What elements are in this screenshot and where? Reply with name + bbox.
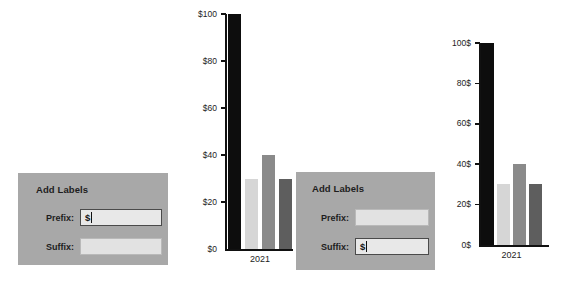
y-axis-tick <box>221 107 226 109</box>
suffix-label: Suffix: <box>305 242 349 252</box>
bar-series-1 <box>228 14 241 249</box>
y-axis-tick <box>221 13 226 15</box>
prefix-field-row: Prefix: $ <box>28 209 162 226</box>
y-axis-tick <box>475 163 480 165</box>
bar-chart-suffix: 0$20$40$60$80$100$2021 <box>443 38 555 280</box>
suffix-input[interactable] <box>80 238 162 255</box>
y-axis-tick-label: 80$ <box>443 78 471 88</box>
y-axis-tick <box>475 204 480 206</box>
x-axis-line <box>479 245 549 247</box>
prefix-label: Prefix: <box>305 213 349 223</box>
add-labels-dialog-suffix: Add Labels Prefix: Suffix: $ <box>296 172 435 270</box>
y-axis-tick <box>221 60 226 62</box>
y-axis-tick-label: 60$ <box>443 118 471 128</box>
x-axis-line <box>225 249 293 251</box>
bar-series-3 <box>262 155 275 249</box>
y-axis-tick-label: 0$ <box>443 240 471 250</box>
bar-series-2 <box>497 184 510 245</box>
y-axis-tick <box>475 123 480 125</box>
prefix-input-value: $ <box>85 212 90 223</box>
prefix-input[interactable]: $ <box>80 209 162 226</box>
bar-chart-prefix: $0$20$40$60$80$1002021 <box>190 8 300 280</box>
prefix-input[interactable] <box>355 209 429 226</box>
y-axis-tick-label: 20$ <box>443 199 471 209</box>
suffix-label: Suffix: <box>28 242 74 252</box>
y-axis-tick <box>475 42 480 44</box>
bar-series-2 <box>245 179 258 250</box>
y-axis-tick-label: 40$ <box>443 159 471 169</box>
y-axis-tick <box>221 154 226 156</box>
dialog-title: Add Labels <box>312 183 364 194</box>
x-axis-tick-label: 2021 <box>230 254 290 264</box>
y-axis-tick-label: $0 <box>190 244 217 254</box>
text-caret <box>366 241 367 252</box>
x-axis-tick-label: 2021 <box>482 250 542 260</box>
y-axis-tick-label: $60 <box>190 103 217 113</box>
suffix-input[interactable]: $ <box>355 238 429 255</box>
y-axis-tick <box>221 201 226 203</box>
y-axis-tick <box>475 83 480 85</box>
y-axis-tick-label: $20 <box>190 197 217 207</box>
y-axis-line <box>225 14 227 250</box>
add-labels-dialog-prefix: Add Labels Prefix: $ Suffix: <box>18 173 168 265</box>
bar-series-3 <box>513 164 526 245</box>
bar-series-4 <box>279 179 292 250</box>
y-axis-tick-label: $40 <box>190 150 217 160</box>
suffix-field-row: Suffix: $ <box>305 238 429 255</box>
suffix-input-value: $ <box>360 241 365 252</box>
y-axis-tick-label: 100$ <box>443 38 471 48</box>
suffix-field-row: Suffix: <box>28 238 162 255</box>
text-caret <box>91 212 92 223</box>
bar-series-1 <box>481 43 494 245</box>
y-axis-tick-label: $100 <box>190 9 217 19</box>
dialog-title: Add Labels <box>36 184 88 195</box>
bar-series-4 <box>529 184 542 245</box>
y-axis-tick-label: $80 <box>190 56 217 66</box>
prefix-label: Prefix: <box>28 213 74 223</box>
prefix-field-row: Prefix: <box>305 209 429 226</box>
